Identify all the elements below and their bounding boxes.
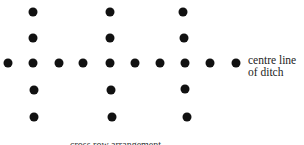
plant-dot (29, 59, 38, 68)
plant-dot (107, 86, 116, 95)
plant-dot (206, 59, 215, 68)
plant-dot (4, 59, 13, 68)
diagram-caption: cross row arrangement (70, 139, 161, 145)
plant-dot (30, 86, 39, 95)
plant-dot (108, 113, 117, 122)
plant-dot (156, 59, 165, 68)
plant-dot (131, 59, 140, 68)
plant-dot (106, 34, 115, 43)
plant-dot (232, 59, 241, 68)
label-line-1: centre line (248, 54, 296, 66)
plant-dot (179, 8, 188, 17)
plant-dot (29, 34, 38, 43)
plant-dot (106, 8, 115, 17)
plant-dot (79, 59, 88, 68)
plant-dot (30, 113, 39, 122)
plant-dot (106, 59, 115, 68)
label-line-2: of ditch (248, 66, 296, 78)
plant-dot (183, 113, 192, 122)
plant-dot (55, 59, 64, 68)
plant-dot (29, 8, 38, 17)
plant-dot (181, 85, 190, 94)
plant-dot (181, 59, 190, 68)
plant-dot (180, 34, 189, 43)
centre-line-label: centre line of ditch (248, 54, 296, 78)
